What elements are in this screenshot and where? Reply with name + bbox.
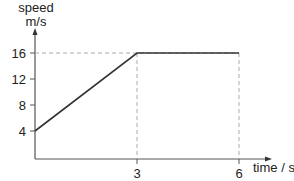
ytick-12-label: 12 — [12, 72, 26, 87]
y-axis-label-unit: m/s — [26, 14, 47, 29]
ytick-4-label: 4 — [19, 124, 26, 139]
y-axis-label-speed: speed — [18, 0, 53, 15]
ytick-16-label: 16 — [12, 46, 26, 61]
xtick-3-label: 3 — [133, 166, 140, 181]
x-axis-label: time / s — [253, 160, 294, 175]
xtick-6-label: 6 — [235, 166, 242, 181]
speed-time-graph: speed m/s 16 12 8 4 3 6 time / s — [0, 0, 294, 181]
y-axis-arrow-icon — [33, 28, 38, 35]
ytick-8-label: 8 — [19, 98, 26, 113]
